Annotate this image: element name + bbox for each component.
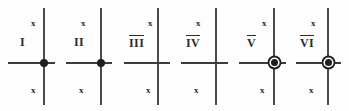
intersection-node-ringed xyxy=(325,59,332,66)
x-label-top-v: x xyxy=(262,19,267,28)
diagram-panel-vi: VI x x xyxy=(290,0,349,111)
x-label-bottom-v: x xyxy=(260,86,265,95)
x-label-top-iii: x xyxy=(148,19,153,28)
intersection-node-solid xyxy=(97,59,105,67)
x-label-top-iv: x xyxy=(196,19,201,28)
vertical-axis-line xyxy=(327,8,329,105)
x-label-top-ii: x xyxy=(81,19,86,28)
vertical-axis-line xyxy=(100,8,102,105)
panel-numeral-i: I xyxy=(20,36,25,48)
panel-numeral-iv: IV xyxy=(186,35,200,49)
panel-numeral-ii: II xyxy=(74,36,84,48)
diagram-panel-ii: II x x xyxy=(58,0,116,111)
vertical-axis-line xyxy=(273,8,275,105)
horizontal-axis-line xyxy=(66,62,112,64)
horizontal-axis-line xyxy=(124,62,170,64)
diagram-panel-i: I x x xyxy=(0,0,58,111)
vertical-axis-line xyxy=(43,8,45,105)
x-label-bottom-iii: x xyxy=(146,86,151,95)
panel-numeral-v: V xyxy=(247,35,256,49)
diagram-panel-v: V x x xyxy=(232,0,290,111)
crossing-diagram-figure: I x x II x x III x x IV x x V x x xyxy=(0,0,349,111)
horizontal-axis-line xyxy=(296,62,341,64)
diagram-panel-iii: III x x xyxy=(116,0,174,111)
horizontal-axis-line xyxy=(239,62,286,64)
horizontal-axis-line xyxy=(8,62,55,64)
x-label-bottom-i: x xyxy=(31,86,36,95)
panel-numeral-vi: VI xyxy=(300,35,314,49)
vertical-axis-line xyxy=(157,8,159,105)
diagram-panel-iv: IV x x xyxy=(174,0,232,111)
horizontal-axis-line xyxy=(181,62,228,64)
x-label-bottom-iv: x xyxy=(194,86,199,95)
intersection-node-ringed xyxy=(271,59,278,66)
vertical-axis-line xyxy=(215,8,217,105)
x-label-top-i: x xyxy=(31,19,36,28)
intersection-node-solid xyxy=(40,59,48,67)
x-label-bottom-vi: x xyxy=(309,86,314,95)
x-label-bottom-ii: x xyxy=(79,86,84,95)
panel-numeral-iii: III xyxy=(129,35,144,49)
x-label-top-vi: x xyxy=(311,19,316,28)
